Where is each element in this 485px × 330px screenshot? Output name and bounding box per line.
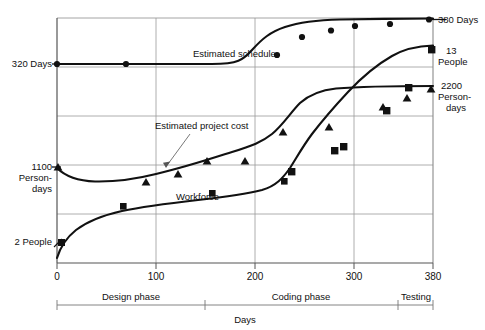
data-point-workforce xyxy=(428,46,435,53)
data-point-workforce xyxy=(340,143,347,150)
cost-start-label-line3: days xyxy=(32,183,52,194)
cost-end-label-line3: days xyxy=(446,102,466,113)
x-axis-title: Days xyxy=(234,314,256,325)
schedule-start-label: 320 Days xyxy=(12,58,52,69)
estimated-schedule-label: Estimated schedule xyxy=(193,48,276,59)
xtick-label-300: 300 xyxy=(346,271,363,282)
cost-start-label-line2: Person- xyxy=(19,172,52,183)
data-point-workforce xyxy=(288,168,295,175)
workforce-start-label: 2 People xyxy=(14,236,52,247)
phase-label-testing: Testing xyxy=(401,291,431,302)
cost-start-label-line1: 1100 xyxy=(32,161,52,172)
phase-label-design: Design phase xyxy=(102,291,160,302)
workforce-end-label-line2: People xyxy=(438,56,468,67)
xtick-label-200: 200 xyxy=(247,271,264,282)
chart-figure: 0 100 200 300 380 xyxy=(0,0,485,330)
data-point-workforce xyxy=(405,84,412,91)
data-point-schedule xyxy=(352,23,358,29)
xtick-label-100: 100 xyxy=(148,271,165,282)
chart-svg: 0 100 200 300 380 xyxy=(0,0,485,330)
phase-label-coding: Coding phase xyxy=(272,291,331,302)
data-point-schedule xyxy=(299,34,305,40)
workforce-end-label-line1: 13 xyxy=(446,45,457,56)
cost-end-label-line2: Person- xyxy=(438,91,471,102)
data-point-workforce xyxy=(120,203,127,210)
data-point-workforce xyxy=(331,147,338,154)
data-point-workforce xyxy=(281,178,288,185)
workforce-label: Workforce xyxy=(176,191,219,202)
xtick-label-380: 380 xyxy=(425,271,442,282)
estimated-project-cost-label: Estimated project cost xyxy=(155,120,249,131)
data-point-schedule xyxy=(387,21,393,27)
data-point-schedule xyxy=(328,27,334,33)
xtick-label-0: 0 xyxy=(54,271,60,282)
cost-end-label-line1: 2200 xyxy=(441,80,462,91)
data-point-schedule xyxy=(123,61,129,67)
data-point-workforce xyxy=(383,107,390,114)
